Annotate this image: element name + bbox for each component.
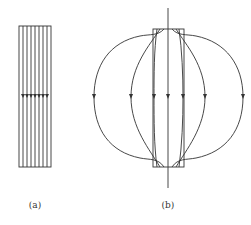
- arrow-icons-b: [92, 94, 245, 99]
- diagram-canvas: [0, 0, 251, 225]
- slab-b: [153, 29, 184, 167]
- arrow-icons-a: [21, 94, 49, 98]
- panel-a-label: (a): [20, 200, 50, 210]
- panel-b-label: (b): [153, 200, 183, 210]
- panel-b: [92, 8, 245, 188]
- panel-a: [19, 26, 51, 167]
